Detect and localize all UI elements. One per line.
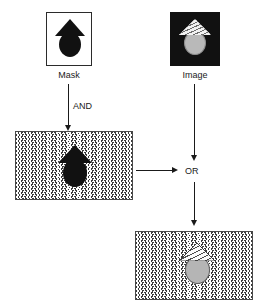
arrow-and-to-or-shaft	[136, 170, 174, 171]
and-operator-label: AND	[73, 101, 92, 112]
and-result-panel	[15, 131, 133, 200]
arrow-or-to-result-shaft	[194, 182, 195, 224]
image-caption: Image	[170, 70, 220, 81]
image-roof-striped	[179, 19, 211, 35]
or-operator-label: OR	[185, 166, 199, 177]
arrow-and-to-or-head	[172, 167, 178, 173]
arrow-image-to-or-head	[191, 155, 197, 161]
and-result-body-shape	[63, 159, 87, 187]
mask-caption: Mask	[46, 70, 92, 81]
or-result-house-glyph	[179, 243, 215, 291]
mask-roof-shape	[55, 19, 85, 36]
or-result-roof-outline	[179, 243, 215, 261]
mask-panel	[46, 12, 92, 66]
image-panel	[170, 12, 220, 66]
arrow-or-to-result-head	[191, 220, 197, 226]
diagram-canvas: Mask Image AND OR	[0, 0, 263, 308]
and-result-house-glyph	[58, 145, 92, 191]
arrow-image-to-or-shaft	[194, 84, 195, 156]
mask-house-glyph	[55, 19, 85, 61]
arrow-mask-to-and-shaft	[68, 84, 69, 126]
and-result-roof-shape	[58, 145, 92, 163]
image-house-glyph	[179, 19, 211, 61]
or-result-panel	[135, 231, 253, 300]
